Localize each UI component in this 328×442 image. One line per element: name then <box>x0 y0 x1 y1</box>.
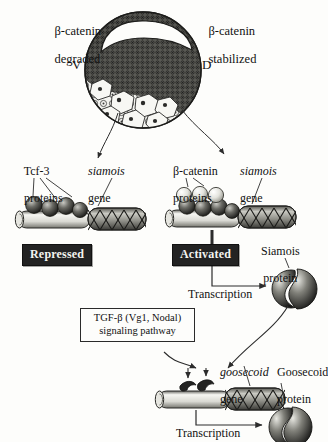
siamois-gene-left-line1: siamois <box>88 164 125 178</box>
goosecoid-gene-label: goosecoid gene <box>208 353 269 420</box>
siamois-protein-line2: protein <box>263 271 297 285</box>
tgf-beta-box-line1: TGF-β (Vg1, Nodal) <box>94 312 181 323</box>
status-badge-repressed: Repressed <box>22 244 92 266</box>
status-badge-activated: Activated <box>172 244 239 266</box>
tgfbeta-to-goosecoid-arrow <box>164 352 196 368</box>
beta-catenin-label-line1: β-catenin <box>173 164 218 178</box>
siamois-gene-label-left: siamois gene <box>76 152 125 219</box>
goosecoid-gene-line2: gene <box>220 392 243 406</box>
leader-dorsal-to-activated <box>182 110 224 154</box>
goosecoid-gene-line1: goosecoid <box>220 365 269 379</box>
tgf-beta-box-line2: signaling pathway <box>99 325 176 336</box>
tcf3-label-line1: Tcf-3 <box>24 164 50 178</box>
goosecoid-protein-line2: protein <box>277 392 311 406</box>
siamois-protein-label: Siamois protein <box>249 232 300 299</box>
beta-catenin-label-line2: proteins <box>173 191 212 205</box>
embryo-left-label-line1: β-catenin <box>55 24 102 38</box>
tcf3-protein-label: Tcf-3 proteins <box>12 152 63 219</box>
siamois-gene-right-line1: siamois <box>240 164 277 178</box>
embryo-right-label-line2: stabilized <box>209 52 257 66</box>
siamois-protein-line1: Siamois <box>261 244 300 258</box>
embryo-right-label-line1: β-catenin <box>209 24 256 38</box>
siamois-gene-right-line2: gene <box>240 191 263 205</box>
beta-catenin-protein-label: β-catenin proteins <box>161 152 218 219</box>
tgf-beta-signaling-box: TGF-β (Vg1, Nodal) signaling pathway <box>80 308 195 342</box>
transcription-label-goosecoid: Transcription <box>176 427 240 440</box>
siamois-gene-label-right: siamois gene <box>228 152 277 219</box>
goosecoid-protein-line1: Goosecoid <box>277 365 328 379</box>
goosecoid-protein-label: Goosecoid protein <box>265 353 328 420</box>
embryo-axis-dorsal: D <box>202 58 211 73</box>
embryo-axis-ventral: V <box>72 58 81 73</box>
tcf3-label-line2: proteins <box>24 191 63 205</box>
siamois-gene-left-line2: gene <box>88 191 111 205</box>
transcription-label-siamois: Transcription <box>188 288 252 301</box>
